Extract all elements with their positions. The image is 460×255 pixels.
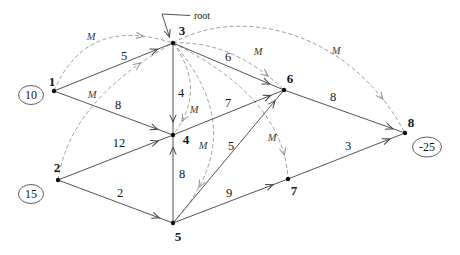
root-label: root bbox=[194, 10, 210, 21]
edge-1-4 bbox=[54, 91, 173, 135]
edge-weight: 8 bbox=[179, 167, 185, 181]
node-value-1: 10 bbox=[25, 88, 37, 102]
m-arc-1-3 bbox=[54, 35, 173, 91]
edge-weight: 3 bbox=[345, 139, 351, 153]
node-dot-2 bbox=[56, 178, 60, 182]
edge-weight: 9 bbox=[226, 186, 232, 200]
big-m-label: M bbox=[86, 31, 97, 42]
node-label-8: 8 bbox=[408, 115, 415, 130]
node-dot-6 bbox=[282, 88, 286, 92]
node-label-2: 2 bbox=[54, 160, 61, 175]
node-dot-8 bbox=[403, 131, 407, 135]
node-value-2: 15 bbox=[25, 187, 37, 201]
edge-weight: 7 bbox=[225, 96, 231, 110]
big-m-label: M bbox=[87, 89, 98, 100]
edge-2-5 bbox=[58, 180, 173, 223]
edge-6-8 bbox=[284, 90, 405, 133]
big-m-label: M bbox=[331, 45, 342, 56]
node-dot-5 bbox=[171, 221, 175, 225]
node-label-1: 1 bbox=[49, 74, 56, 89]
root-pointer-line bbox=[162, 14, 190, 16]
edge-weight: 12 bbox=[113, 136, 126, 150]
edge-weight: 8 bbox=[115, 98, 121, 112]
big-m-label: M bbox=[267, 132, 278, 143]
big-m-label: M bbox=[253, 46, 264, 57]
m-arc-arrowhead bbox=[133, 61, 142, 70]
big-m-label: M bbox=[198, 140, 209, 151]
node-dot-3 bbox=[171, 41, 175, 45]
edge-weight: 6 bbox=[225, 50, 231, 64]
edge-weight: 5 bbox=[228, 139, 234, 153]
node-label-6: 6 bbox=[287, 71, 294, 86]
graph-canvas: MMMMMMM5812248675983root123456781015-25 bbox=[0, 0, 460, 255]
node-label-7: 7 bbox=[291, 183, 298, 198]
node-label-3: 3 bbox=[179, 23, 186, 38]
node-dot-7 bbox=[286, 177, 290, 181]
node-label-5: 5 bbox=[175, 229, 182, 244]
edge-weight: 8 bbox=[330, 90, 336, 104]
big-m-label: M bbox=[189, 104, 200, 115]
node-dot-4 bbox=[171, 133, 175, 137]
edge-weight: 2 bbox=[117, 186, 123, 200]
network-figure: MMMMMMM5812248675983root123456781015-25 bbox=[0, 0, 460, 255]
edge-weight: 5 bbox=[121, 49, 127, 63]
node-label-4: 4 bbox=[183, 132, 190, 147]
node-value-8: -25 bbox=[419, 140, 435, 154]
node-dot-1 bbox=[52, 89, 56, 93]
root-pointer-line bbox=[162, 14, 170, 37]
edge-weight: 4 bbox=[178, 86, 185, 100]
